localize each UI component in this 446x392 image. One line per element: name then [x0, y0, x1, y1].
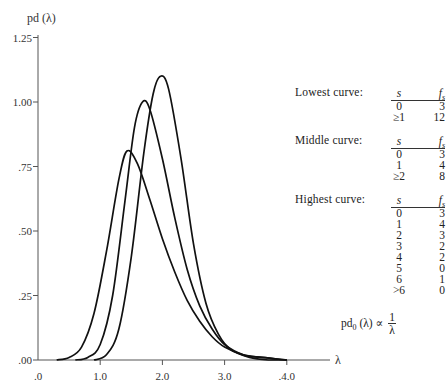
x-tick-label: .4.0: [279, 370, 296, 382]
legend-highest-name: Highest curve:: [295, 193, 365, 205]
table-row: ≥28: [391, 171, 445, 182]
x-tick-label: .0: [34, 370, 43, 382]
col-s-header: s: [391, 86, 407, 100]
chart-curves: [57, 76, 287, 360]
s-value: ≥1: [391, 112, 407, 123]
formula-denominator: λ: [388, 324, 396, 336]
formula-fraction: 1λ: [388, 312, 396, 336]
table-row: ≥112: [391, 112, 445, 123]
curve-middle: [75, 101, 286, 360]
formula-lhs: pd: [341, 317, 353, 329]
x-axis-title: λ: [335, 353, 341, 367]
col-s-header: s: [391, 134, 407, 148]
fs-value: 8: [427, 171, 445, 182]
legend-lowest-table: s fs 03≥112: [391, 86, 445, 123]
table-row: >60: [391, 285, 445, 296]
y-axis-title: pd (λ): [27, 11, 56, 25]
formula-numerator: 1: [388, 312, 396, 324]
col-s-header: s: [391, 193, 407, 207]
y-tick-label: .50: [18, 225, 32, 237]
x-tick-label: 2.0: [156, 370, 170, 382]
fs-value: 12: [427, 112, 445, 123]
col-f-header: fs: [427, 134, 445, 148]
y-tick-label: .25: [18, 290, 32, 302]
legend-lowest-name: Lowest curve:: [295, 86, 363, 98]
legend-middle-name: Middle curve:: [295, 134, 362, 146]
y-tick-label: .00: [18, 354, 32, 366]
table-header: s fs: [391, 86, 445, 101]
y-tick-label: 1.25: [13, 32, 33, 44]
prior-formula: pd0 (λ) ∝ 1λ: [341, 312, 396, 336]
x-tick-label: 1.0: [93, 370, 107, 382]
y-tick-label: 1.00: [13, 96, 33, 108]
formula-arg: (λ) ∝: [357, 317, 387, 329]
curve-lowest: [57, 150, 287, 360]
y-tick-label: .75: [18, 161, 32, 173]
table-header: s fs: [391, 193, 445, 208]
s-value: ≥2: [391, 171, 407, 182]
s-value: >6: [391, 285, 407, 296]
table-header: s fs: [391, 134, 445, 149]
x-tick-label: 3.0: [218, 370, 232, 382]
chart-axes: .00.25.50.751.001.25.01.02.03.0.4.0: [13, 32, 330, 383]
legend-middle-table: s fs 0314≥28: [391, 134, 445, 182]
col-f-header: fs: [427, 193, 445, 207]
legend-highest-table: s fs 03142332425061>60: [391, 193, 445, 296]
fs-value: 0: [427, 285, 445, 296]
col-f-header: fs: [427, 86, 445, 100]
